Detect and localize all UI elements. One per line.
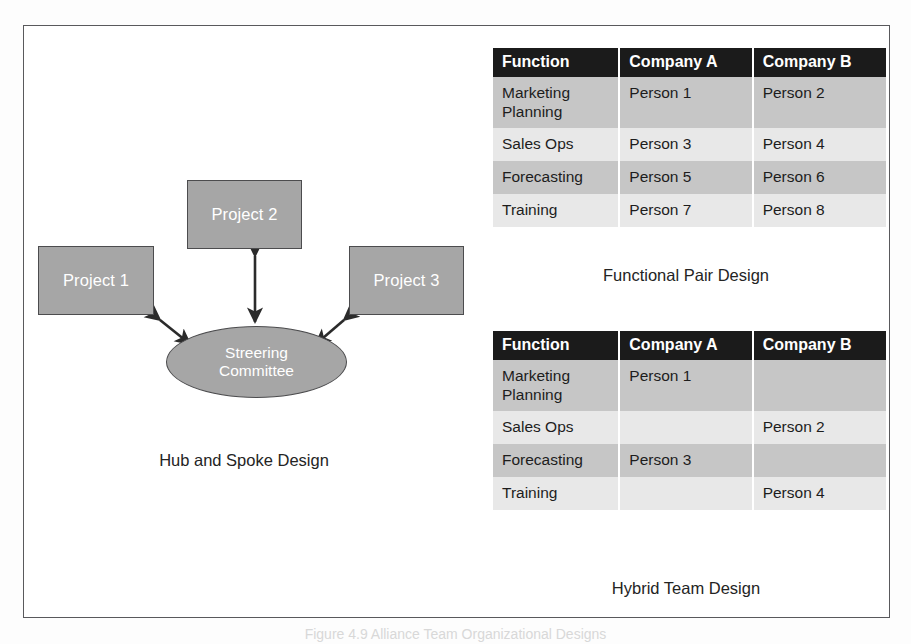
figure-bottom-label: Figure 4.9 Alliance Team Organizational … [0, 626, 911, 642]
cell-function: Sales Ops [493, 411, 619, 444]
table-header-row: Function Company A Company B [493, 48, 886, 77]
cell-function: Forecasting [493, 161, 619, 194]
header-company-a: Company A [619, 331, 752, 360]
header-function: Function [493, 48, 619, 77]
hybrid-team-table: Function Company A Company B MarketingPl… [493, 331, 886, 510]
header-company-a: Company A [619, 48, 752, 77]
cell-company-b [753, 444, 886, 477]
figure-frame: Steering Committee --> Steering Committe… [23, 25, 890, 618]
header-company-b: Company B [753, 331, 886, 360]
table-row: MarketingPlanning Person 1 Person 2 [493, 77, 886, 128]
cell-company-b: Person 4 [753, 128, 886, 161]
table-row: Forecasting Person 3 [493, 444, 886, 477]
steering-committee-node[interactable]: Streering Committee [166, 326, 347, 398]
table-row: Sales Ops Person 2 [493, 411, 886, 444]
cell-company-a: Person 3 [619, 128, 752, 161]
hub-and-spoke-diagram: Steering Committee --> Steering Committe… [24, 26, 486, 619]
project-2-label: Project 2 [211, 205, 277, 224]
table-header-row: Function Company A Company B [493, 331, 886, 360]
cell-company-a: Person 7 [619, 194, 752, 227]
cell-company-b: Person 2 [753, 77, 886, 128]
cell-company-a: Person 3 [619, 444, 752, 477]
table-row: Forecasting Person 5 Person 6 [493, 161, 886, 194]
cell-company-a [619, 411, 752, 444]
project-1-node[interactable]: Project 1 [38, 246, 154, 315]
cell-company-a: Person 1 [619, 360, 752, 411]
spoke-arrows-group: Steering Committee --> Steering Committe… [24, 26, 486, 619]
header-function: Function [493, 331, 619, 360]
table-row: MarketingPlanning Person 1 [493, 360, 886, 411]
cell-company-b [753, 360, 886, 411]
cell-function: MarketingPlanning [493, 77, 619, 128]
tables-panel: Function Company A Company B MarketingPl… [486, 26, 891, 619]
cell-company-a: Person 1 [619, 77, 752, 128]
project-3-label: Project 3 [373, 271, 439, 290]
cell-company-b: Person 6 [753, 161, 886, 194]
functional-pair-table: Function Company A Company B MarketingPl… [493, 48, 886, 227]
steering-committee-label-line2: Committee [219, 362, 294, 380]
cell-function: Training [493, 194, 619, 227]
table-row: Training Person 4 [493, 477, 886, 510]
cell-company-a [619, 477, 752, 510]
cell-company-a: Person 5 [619, 161, 752, 194]
steering-committee-label-line1: Streering [225, 344, 288, 362]
cell-company-b: Person 2 [753, 411, 886, 444]
cell-function: Sales Ops [493, 128, 619, 161]
project-2-node[interactable]: Project 2 [187, 180, 302, 249]
cell-function: Forecasting [493, 444, 619, 477]
header-company-b: Company B [753, 48, 886, 77]
hub-and-spoke-caption: Hub and Spoke Design [24, 451, 464, 470]
cell-function: Training [493, 477, 619, 510]
cell-company-b: Person 4 [753, 477, 886, 510]
functional-pair-caption: Functional Pair Design [486, 266, 886, 285]
project-1-label: Project 1 [63, 271, 129, 290]
hybrid-team-caption: Hybrid Team Design [486, 579, 886, 598]
project-3-node[interactable]: Project 3 [349, 246, 464, 315]
table-row: Training Person 7 Person 8 [493, 194, 886, 227]
table-row: Sales Ops Person 3 Person 4 [493, 128, 886, 161]
cell-function: MarketingPlanning [493, 360, 619, 411]
cell-company-b: Person 8 [753, 194, 886, 227]
